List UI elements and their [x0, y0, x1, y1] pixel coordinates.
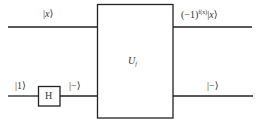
- bottom-input-label: |1⟩: [15, 81, 26, 91]
- oracle-label: Uf: [128, 56, 137, 67]
- top-output-label: (−1)f(x)|x⟩: [181, 9, 218, 20]
- phase-exponent: f(x): [198, 9, 207, 15]
- top-input-label: |x⟩: [43, 9, 53, 19]
- ket-angle: ⟩: [214, 9, 218, 20]
- bottom-after-h-label: |−⟩: [69, 81, 81, 91]
- bottom-output-label: |−⟩: [207, 81, 219, 91]
- hadamard-gate-label: H: [45, 91, 52, 101]
- ket-angle: ⟩: [49, 8, 53, 19]
- oracle-subscript: f: [135, 61, 137, 67]
- phase-factor: (−1): [181, 9, 198, 20]
